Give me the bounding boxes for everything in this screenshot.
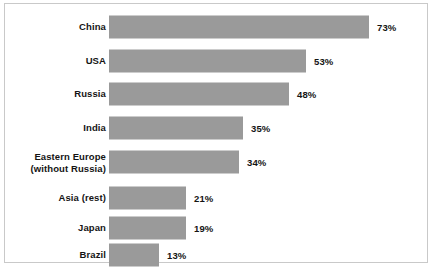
bar [109,83,289,106]
bar [109,16,369,39]
bar-value-label: 19% [194,223,213,234]
bar [109,187,186,210]
bar [109,50,306,73]
bar-value-label: 34% [247,157,266,168]
bar-value-label: 73% [377,22,396,33]
category-label: Japan [78,222,106,234]
bar [109,244,159,267]
bar-value-label: 48% [297,89,316,100]
bar-value-label: 21% [194,193,213,204]
category-label: Eastern Europe (without Russia) [31,151,107,174]
category-label: Brazil [80,249,106,261]
bar-value-label: 13% [167,250,186,261]
category-label: India [83,122,106,134]
category-label: Asia (rest) [58,192,106,204]
bar-chart-plot-area: China73%USA53%Russia48%India35%Eastern E… [5,4,427,262]
chart-frame: China73%USA53%Russia48%India35%Eastern E… [4,3,428,263]
category-label: USA [86,55,106,67]
category-label: China [79,21,106,33]
bar [109,217,186,240]
bar [109,151,239,174]
bar [109,117,243,140]
bar-value-label: 53% [314,56,333,67]
category-label: Russia [74,88,106,100]
bar-value-label: 35% [251,123,270,134]
